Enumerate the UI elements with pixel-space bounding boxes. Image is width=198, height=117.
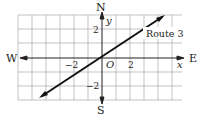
tick-y-pos2: 2 bbox=[93, 25, 99, 35]
south-label: S bbox=[97, 104, 105, 117]
west-label: W bbox=[6, 52, 18, 65]
tick-x-neg2: −2 bbox=[65, 60, 78, 70]
origin-label: O bbox=[106, 59, 114, 70]
coordinate-diagram: N S W E y x O −2 2 2 −2 Route 3 bbox=[0, 0, 198, 117]
east-label: E bbox=[189, 52, 197, 65]
x-axis-label: x bbox=[177, 59, 183, 70]
north-label: N bbox=[96, 1, 106, 14]
tick-x-pos2: 2 bbox=[128, 60, 134, 70]
y-axis-label: y bbox=[105, 15, 112, 26]
route-3-label: Route 3 bbox=[146, 28, 184, 39]
tick-y-neg2: −2 bbox=[86, 81, 99, 91]
